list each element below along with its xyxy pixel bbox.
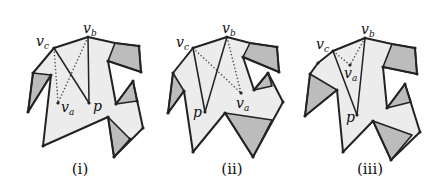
vertex-dot xyxy=(191,46,194,49)
vertex-dot xyxy=(252,88,255,91)
solid-segment xyxy=(88,37,89,103)
vertex-dot xyxy=(335,88,338,91)
vertex-dot xyxy=(131,79,134,82)
vertex-dot xyxy=(415,72,418,75)
vertex-dot xyxy=(403,82,406,85)
vertex-dot xyxy=(251,155,254,158)
vertex-dot xyxy=(171,71,174,74)
vertex-dot xyxy=(381,65,384,68)
vertex-dot xyxy=(418,130,421,133)
vertex-dot xyxy=(316,61,319,64)
vertex-dot xyxy=(355,113,358,116)
vertex-dot xyxy=(139,70,142,73)
vertex-dot xyxy=(26,110,29,113)
vertex-label-p: p xyxy=(346,109,355,125)
vertex-dot xyxy=(385,106,388,109)
vertex-dot xyxy=(166,111,169,114)
vertex-dot xyxy=(203,110,206,113)
shaded-pocket xyxy=(108,43,141,72)
caption-figure-i: (i) xyxy=(50,160,110,178)
caption-figure-ii: (ii) xyxy=(202,160,262,178)
vertex-label-p: p xyxy=(93,98,102,114)
vertex-dot xyxy=(135,99,138,102)
vertex-dot xyxy=(49,73,52,76)
vertex-dot xyxy=(308,72,311,75)
vertex-dot xyxy=(281,100,284,103)
vertex-label-vb: vb xyxy=(361,21,375,39)
vertex-label-vc: vc xyxy=(316,36,329,54)
vertex-label-vb: vb xyxy=(83,20,97,38)
vertex-dot xyxy=(112,155,115,158)
vertex-dot xyxy=(331,49,334,52)
vertex-dot xyxy=(56,101,59,104)
figure-i: vcvbvap xyxy=(26,20,144,159)
vertex-dot xyxy=(182,89,185,92)
vertex-dot xyxy=(275,45,278,48)
vertex-label-vc: vc xyxy=(36,33,49,51)
vertex-dot xyxy=(371,119,374,122)
vertex-dot xyxy=(191,150,194,153)
vertex-dot xyxy=(52,46,55,49)
vertex-dot xyxy=(114,102,117,105)
vertex-dot xyxy=(141,126,144,129)
vertex-dot xyxy=(128,137,131,140)
vertex-dot xyxy=(266,71,269,74)
vertex-dot xyxy=(106,115,109,118)
vertex-dot xyxy=(31,71,34,74)
figure-ii: vcvbvap xyxy=(166,20,284,159)
vertex-dot xyxy=(137,44,140,47)
vertex-dot xyxy=(413,46,416,49)
vertex-label-p: p xyxy=(193,104,202,120)
vertex-dot xyxy=(41,144,44,147)
vertex-label-vb: vb xyxy=(222,20,236,38)
vertex-dot xyxy=(223,111,226,114)
figure-iii: vcvbvap xyxy=(303,21,421,162)
vertex-label-vc: vc xyxy=(176,34,189,52)
vertex-dot xyxy=(303,114,306,117)
vertex-dot xyxy=(87,101,90,104)
vertex-dot xyxy=(241,55,244,58)
caption-figure-iii: (iii) xyxy=(340,160,400,178)
vertex-dot xyxy=(106,59,109,62)
vertex-dot xyxy=(277,70,280,73)
vertex-dot xyxy=(341,150,344,153)
